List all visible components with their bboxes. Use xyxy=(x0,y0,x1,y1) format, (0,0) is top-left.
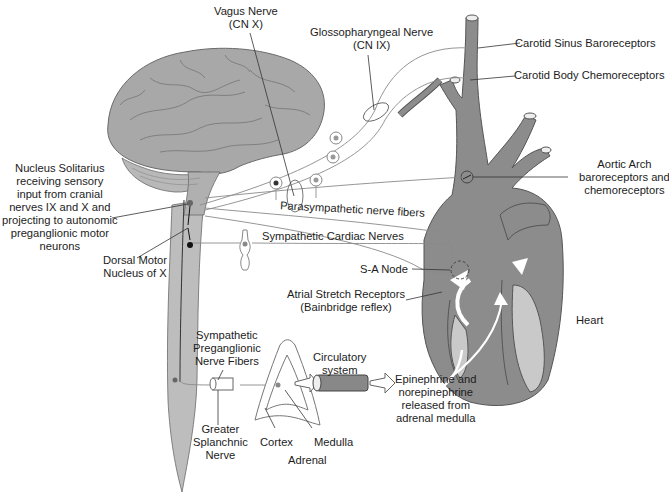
label-carotid-body: Carotid Body Chemoreceptors xyxy=(514,69,664,82)
label-line: (CN IX) xyxy=(310,39,433,52)
label-epinephrine: Epinephrine and norepinephrine released … xyxy=(395,373,477,425)
sympathetic-ganglion xyxy=(240,230,250,270)
label-aortic-arch: Aortic Arch baroreceptors and chemorecep… xyxy=(579,158,669,197)
label-line: Sympathetic xyxy=(193,329,261,342)
label-line: Vagus Nerve xyxy=(214,5,278,18)
label-line: Nerve Fibers xyxy=(193,355,261,368)
label-nucleus-solitarius: Nucleus Solitarius receiving sensory inp… xyxy=(2,162,118,253)
splanchnic-nerve-cylinder xyxy=(210,378,233,390)
label-sa-node: S-A Node xyxy=(360,263,408,276)
label-line: projecting to autonomic xyxy=(2,214,118,227)
label-vagus-nerve: Vagus Nerve (CN X) xyxy=(214,5,278,31)
label-line: neurons xyxy=(2,240,118,253)
label-glossopharyngeal-nerve: Glossopharyngeal Nerve (CN IX) xyxy=(310,26,433,52)
label-sympathetic-cardiac-nerves: Sympathetic Cardiac Nerves xyxy=(262,230,404,243)
label-line: Epinephrine and xyxy=(395,373,477,386)
label-line: Glossopharyngeal Nerve xyxy=(310,26,433,39)
label-line: baroreceptors and xyxy=(579,171,669,184)
label-line: Atrial Stretch Receptors xyxy=(287,288,405,301)
label-line: (Bainbridge reflex) xyxy=(287,301,405,314)
label-line: Circulatory xyxy=(313,351,366,364)
label-line: Greater xyxy=(193,423,248,436)
label-line: input from cranial xyxy=(2,188,118,201)
diagram-canvas: Vagus Nerve (CN X) Glossopharyngeal Nerv… xyxy=(0,0,669,496)
label-line: receiving sensory xyxy=(2,175,118,188)
label-carotid-sinus: Carotid Sinus Baroreceptors xyxy=(515,37,656,50)
label-line: Nucleus of X xyxy=(103,267,167,280)
label-line: Preganglionic xyxy=(193,342,261,355)
label-circulatory-system: Circulatory system xyxy=(313,351,366,377)
label-line: Nerve xyxy=(193,449,248,462)
label-dorsal-motor-nucleus: Dorsal Motor Nucleus of X xyxy=(103,254,167,280)
label-medulla: Medulla xyxy=(314,436,353,449)
label-adrenal: Adrenal xyxy=(288,454,327,467)
label-heart: Heart xyxy=(576,314,603,327)
label-line: system xyxy=(313,364,366,377)
label-cortex: Cortex xyxy=(260,436,293,449)
label-line: norepinephrine xyxy=(395,386,477,399)
label-greater-splanchnic: Greater Splanchnic Nerve xyxy=(193,423,248,462)
label-line: Aortic Arch xyxy=(579,158,669,171)
label-line: nerves IX and X and xyxy=(2,201,118,214)
label-line: Dorsal Motor xyxy=(103,254,167,267)
label-sympathetic-preganglionic: Sympathetic Preganglionic Nerve Fibers xyxy=(193,329,261,368)
label-line: released from xyxy=(395,399,477,412)
label-line: chemoreceptors xyxy=(579,184,669,197)
label-line: Nucleus Solitarius xyxy=(2,162,118,175)
label-line: Splanchnic xyxy=(193,436,248,449)
label-line: preganglionic motor xyxy=(2,227,118,240)
label-line: (CN X) xyxy=(214,18,278,31)
glossopharyngeal-bundle xyxy=(360,99,391,125)
label-atrial-stretch-receptors: Atrial Stretch Receptors (Bainbridge ref… xyxy=(287,288,405,314)
label-line: adrenal medulla xyxy=(395,412,477,425)
